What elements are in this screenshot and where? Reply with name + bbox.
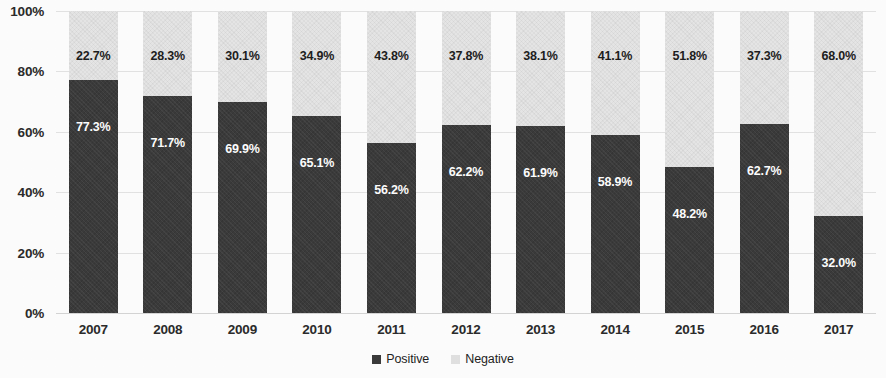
data-label-negative: 30.1% — [218, 49, 267, 63]
data-label-positive: 58.9% — [591, 175, 640, 189]
legend-swatch-negative-icon — [451, 355, 460, 364]
data-label-positive: 62.2% — [442, 165, 491, 179]
plot-area: 22.7%77.3%28.3%71.7%30.1%69.9%34.9%65.1%… — [56, 11, 876, 313]
legend-label: Negative — [465, 352, 514, 366]
bar-group[interactable]: 30.1%69.9% — [218, 11, 267, 313]
bar-segment-negative[interactable] — [740, 11, 789, 124]
data-label-negative: 37.3% — [740, 49, 789, 63]
data-label-positive: 65.1% — [292, 156, 341, 170]
y-tick-label: 60% — [18, 124, 44, 139]
bar-segment-positive[interactable] — [143, 96, 192, 313]
data-label-positive: 61.9% — [516, 166, 565, 180]
y-tick-label: 40% — [18, 185, 44, 200]
bar-group[interactable]: 41.1%58.9% — [591, 11, 640, 313]
x-tick-label: 2016 — [727, 322, 802, 337]
legend-item-positive[interactable]: Positive — [372, 352, 429, 366]
data-label-negative: 68.0% — [814, 49, 863, 63]
data-label-negative: 37.8% — [442, 49, 491, 63]
bar-segment-negative[interactable] — [665, 11, 714, 167]
bar-segment-positive[interactable] — [367, 143, 416, 313]
x-tick-label: 2007 — [56, 322, 131, 337]
data-label-negative: 51.8% — [665, 49, 714, 63]
bar-group[interactable]: 22.7%77.3% — [69, 11, 118, 313]
data-label-negative: 38.1% — [516, 49, 565, 63]
bar-segment-positive[interactable] — [69, 80, 118, 313]
bar-segment-negative[interactable] — [591, 11, 640, 135]
data-label-positive: 71.7% — [143, 136, 192, 150]
x-tick-label: 2011 — [354, 322, 429, 337]
bar-segment-negative[interactable] — [814, 11, 863, 216]
legend-label: Positive — [386, 352, 429, 366]
y-tick-label: 100% — [10, 4, 44, 19]
x-tick-label: 2015 — [652, 322, 727, 337]
x-tick-label: 2017 — [801, 322, 876, 337]
x-tick-label: 2013 — [503, 322, 578, 337]
data-label-positive: 48.2% — [665, 207, 714, 221]
bar-segment-positive[interactable] — [292, 116, 341, 313]
x-tick-label: 2008 — [131, 322, 206, 337]
bar-segment-negative[interactable] — [442, 11, 491, 125]
gridline-0 — [56, 313, 876, 314]
y-axis: 100%80%60%40%20%0% — [0, 0, 50, 324]
bar-segment-negative[interactable] — [367, 11, 416, 143]
data-label-negative: 28.3% — [143, 49, 192, 63]
bar-group[interactable]: 34.9%65.1% — [292, 11, 341, 313]
stacked-bar-chart: 22.7%77.3%28.3%71.7%30.1%69.9%34.9%65.1%… — [0, 0, 886, 378]
y-tick-label: 20% — [18, 245, 44, 260]
bar-segment-negative[interactable] — [516, 11, 565, 126]
bar-group[interactable]: 28.3%71.7% — [143, 11, 192, 313]
x-tick-label: 2014 — [578, 322, 653, 337]
chart-legend: PositiveNegative — [0, 352, 886, 366]
bar-segment-positive[interactable] — [665, 167, 714, 313]
data-label-positive: 77.3% — [69, 120, 118, 134]
bar-segment-positive[interactable] — [740, 124, 789, 313]
bar-group[interactable]: 68.0%32.0% — [814, 11, 863, 313]
x-tick-label: 2009 — [205, 322, 280, 337]
bar-segment-positive[interactable] — [442, 125, 491, 313]
bar-group[interactable]: 37.3%62.7% — [740, 11, 789, 313]
data-label-negative: 43.8% — [367, 49, 416, 63]
data-label-positive: 69.9% — [218, 142, 267, 156]
x-tick-label: 2012 — [429, 322, 504, 337]
y-tick-label: 80% — [18, 64, 44, 79]
bar-group[interactable]: 38.1%61.9% — [516, 11, 565, 313]
bar-segment-positive[interactable] — [218, 102, 267, 313]
data-label-positive: 32.0% — [814, 256, 863, 270]
bar-segment-negative[interactable] — [69, 11, 118, 80]
data-label-positive: 56.2% — [367, 183, 416, 197]
bar-segment-negative[interactable] — [292, 11, 341, 116]
bar-group[interactable]: 43.8%56.2% — [367, 11, 416, 313]
bar-group[interactable]: 37.8%62.2% — [442, 11, 491, 313]
x-tick-label: 2010 — [280, 322, 355, 337]
legend-item-negative[interactable]: Negative — [451, 352, 514, 366]
data-label-negative: 41.1% — [591, 49, 640, 63]
x-axis: 2007200820092010201120122013201420152016… — [56, 318, 876, 344]
data-label-negative: 22.7% — [69, 49, 118, 63]
y-tick-label: 0% — [25, 306, 44, 321]
data-label-negative: 34.9% — [292, 49, 341, 63]
bar-group[interactable]: 51.8%48.2% — [665, 11, 714, 313]
data-label-positive: 62.7% — [740, 164, 789, 178]
bar-segment-positive[interactable] — [591, 135, 640, 313]
bar-segment-positive[interactable] — [516, 126, 565, 313]
legend-swatch-positive-icon — [372, 355, 381, 364]
